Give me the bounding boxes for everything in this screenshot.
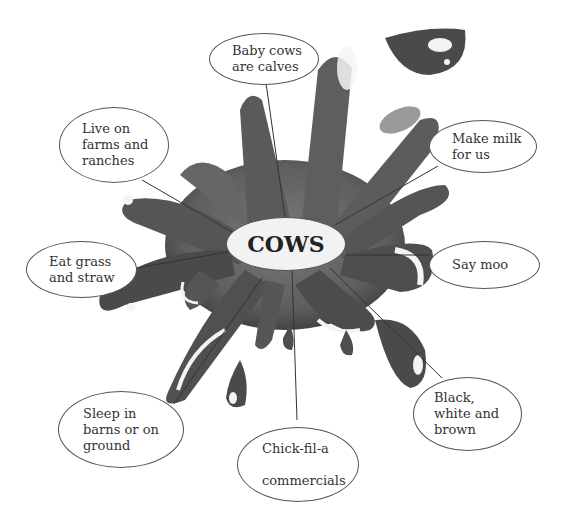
node-colors: Black, white and brown xyxy=(413,377,522,451)
node-eat-grass: Eat grass and straw xyxy=(26,241,137,298)
node-label: Chick-fil-a commercials xyxy=(262,441,346,489)
node-say-moo: Say moo xyxy=(429,241,540,289)
node-chick-fil-a: Chick-fil-a commercials xyxy=(237,427,359,502)
node-sleep-in-barns: Sleep in barns or on ground xyxy=(58,391,184,468)
node-label: Sleep in barns or on ground xyxy=(83,406,159,454)
node-label: Live on farms and ranches xyxy=(82,121,148,169)
node-baby-cows: Baby cows are calves xyxy=(209,33,319,85)
node-live-on-farms: Live on farms and ranches xyxy=(59,107,169,183)
mind-map-diagram: COWS Baby cows are calves Live on farms … xyxy=(0,0,568,522)
center-label: COWS xyxy=(247,231,324,257)
node-label: Eat grass and straw xyxy=(49,254,115,286)
center-node: COWS xyxy=(226,217,346,271)
node-label: Say moo xyxy=(452,257,508,273)
node-label: Make milk for us xyxy=(452,131,521,163)
node-label: Baby cows are calves xyxy=(232,43,302,75)
node-label: Black, white and brown xyxy=(434,390,499,438)
node-make-milk: Make milk for us xyxy=(429,120,537,173)
